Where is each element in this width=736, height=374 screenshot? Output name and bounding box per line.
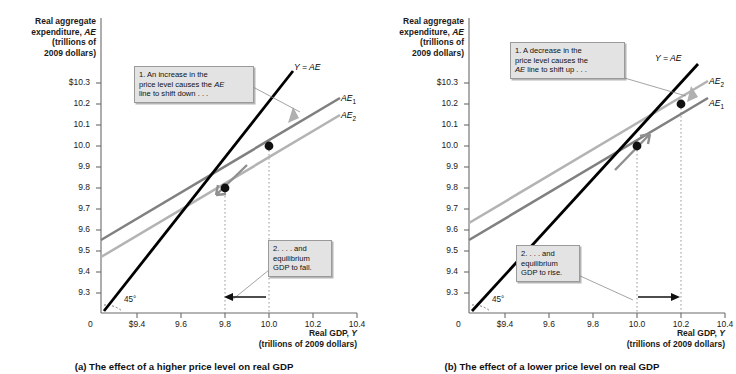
y-axis-title: Real aggregate expenditure, AE (trillion… <box>0 16 96 58</box>
y-tick-label: 9.3 <box>46 287 90 297</box>
y-tick-label: 9.4 <box>46 266 90 276</box>
y-tick-label: 9.3 <box>414 287 458 297</box>
y-tick-label: 9.6 <box>414 224 458 234</box>
equilibrium-point-new <box>677 100 686 109</box>
y-tick-label: $10.3 <box>46 77 90 87</box>
callout-line-3: GDP to rise. <box>521 268 575 278</box>
x-tick-label: $9.4 <box>117 319 157 329</box>
line-label-identity: Y = AE <box>294 62 321 72</box>
equilibrium-point-initial <box>265 142 274 151</box>
y-tick-label: 9.5 <box>414 245 458 255</box>
y-tick-label: 9.8 <box>414 182 458 192</box>
direction-arrow-right <box>638 293 680 301</box>
callout-equilibrium-fall: 2. . . . and equilibrium GDP to fall. <box>268 240 332 277</box>
x-axis-ticks <box>505 313 725 318</box>
x-tick-label: $9.4 <box>485 319 525 329</box>
y-tick-label: 9.9 <box>46 161 90 171</box>
line-label-ae-upper: AE2 <box>709 76 724 88</box>
callout-line-3: AE line to shift up . . . <box>515 65 620 75</box>
y-tick-label: 9.9 <box>414 161 458 171</box>
forty-five-degree-line <box>104 71 293 311</box>
forty-five-degree-label: 45° <box>124 295 136 304</box>
line-label-ae-lower: AE1 <box>709 98 724 110</box>
forty-five-degree-label: 45° <box>492 295 504 304</box>
ae1-line <box>101 98 340 240</box>
x-axis-title: Real GDP, Y (trillions of 2009 dollars) <box>573 328 725 349</box>
y-axis-ticks <box>464 83 469 293</box>
ae2-line <box>469 81 708 223</box>
x-axis-ticks <box>137 313 357 318</box>
y-tick-label: 10.0 <box>414 140 458 150</box>
panel-a: Real aggregate expenditure, AE (trillion… <box>0 0 368 374</box>
origin-label: 0 <box>456 319 461 329</box>
y-tick-label: 9.8 <box>46 182 90 192</box>
y-tick-label: 10.1 <box>46 119 90 129</box>
y-tick-label: 9.7 <box>414 203 458 213</box>
origin-label: 0 <box>88 319 93 329</box>
callout-2-leader <box>232 270 269 300</box>
line-label-ae-lower: AE2 <box>341 110 356 122</box>
callout-price-level-decrease: 1. A decrease in the price level causes … <box>510 42 625 79</box>
ae1-line <box>469 98 708 240</box>
callout-line-3: line to shift down . . . <box>139 89 249 99</box>
callout-line-2: equilibrium <box>521 259 575 269</box>
panel-b: Real aggregate expenditure, AE (trillion… <box>368 0 736 374</box>
y-tick-label: $10.3 <box>414 77 458 87</box>
callout-line-2: price level causes the AE <box>139 80 249 90</box>
y-tick-label: 10.2 <box>414 98 458 108</box>
y-tick-label: 9.4 <box>414 266 458 276</box>
equilibrium-point-initial <box>633 142 642 151</box>
callout-line-2: equilibrium <box>273 254 327 264</box>
x-axis-title: Real GDP, Y (trillions of 2009 dollars) <box>205 328 357 349</box>
y-tick-label: 10.1 <box>414 119 458 129</box>
y-tick-label: 9.5 <box>46 245 90 255</box>
forty-five-degree-line <box>472 64 698 311</box>
y-tick-label: 10.0 <box>46 140 90 150</box>
y-tick-label: 10.2 <box>46 98 90 108</box>
direction-arrow-left <box>224 293 266 301</box>
callout-equilibrium-rise: 2. . . . and equilibrium GDP to rise. <box>516 245 580 282</box>
panel-a-caption: (a) The effect of a higher price level o… <box>0 361 368 372</box>
figure-container: Real aggregate expenditure, AE (trillion… <box>0 0 736 374</box>
x-tick-label: 9.6 <box>161 319 201 329</box>
ae2-line <box>101 115 340 257</box>
y-tick-label: 9.6 <box>46 224 90 234</box>
y-tick-label: 9.7 <box>46 203 90 213</box>
panel-b-caption: (b) The effect of a lower price level on… <box>368 361 736 372</box>
line-label-ae-upper: AE1 <box>341 93 356 105</box>
x-tick-label: 9.6 <box>529 319 569 329</box>
equilibrium-point-new <box>221 184 230 193</box>
callout-line-2: price level causes the <box>515 56 620 66</box>
callout-line-3: GDP to fall. <box>273 263 327 273</box>
callout-line-1: 2. . . . and <box>273 244 327 254</box>
callout-line-1: 2. . . . and <box>521 249 575 259</box>
callout-price-level-increase: 1. An increase in the price level causes… <box>134 66 254 103</box>
y-axis-ticks <box>96 83 101 293</box>
y-axis-title: Real aggregate expenditure, AE (trillion… <box>360 16 464 58</box>
callout-line-1: 1. A decrease in the <box>515 46 620 56</box>
line-label-identity: Y = AE <box>655 53 682 63</box>
callout-2-leader <box>578 275 633 300</box>
callout-line-1: 1. An increase in the <box>139 70 249 80</box>
